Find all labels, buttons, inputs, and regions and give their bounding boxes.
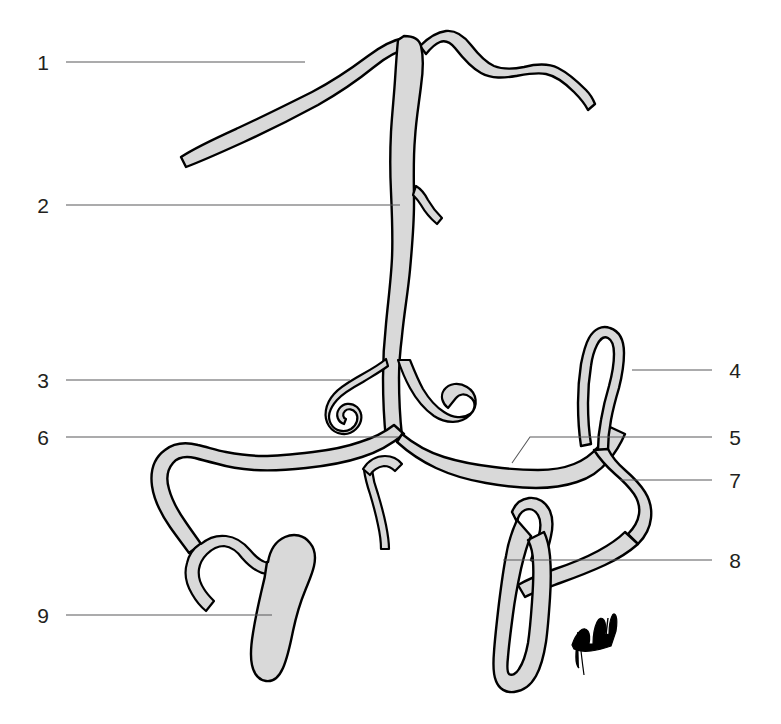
central-hanging-tail	[364, 470, 389, 549]
label-number-9: 9	[37, 604, 49, 627]
left-curled-branch	[326, 359, 388, 434]
right-ascending-base	[594, 449, 651, 544]
right-descending-lobe	[493, 520, 550, 692]
label-number-7: 7	[729, 469, 741, 492]
center-right-notch	[363, 456, 402, 475]
left-horizontal-branch	[152, 425, 404, 553]
label-number-5: 5	[729, 426, 741, 449]
left-descending-lobe	[251, 535, 315, 681]
figure-canvas: 1 2 3 6 9 4 5 7 8	[0, 0, 781, 724]
label-number-6: 6	[37, 426, 49, 449]
label-number-2: 2	[37, 194, 49, 217]
right-curled-branch	[398, 360, 476, 422]
labels-right-group: 4 5 7 8	[729, 359, 741, 572]
label-number-3: 3	[37, 369, 49, 392]
left-superior-branch	[181, 38, 409, 167]
labels-left-group: 1 2 3 6 9	[37, 51, 49, 627]
label-number-4: 4	[729, 359, 741, 382]
organ-outline-group	[152, 31, 652, 692]
label-number-8: 8	[729, 549, 741, 572]
anatomical-diagram: 1 2 3 6 9 4 5 7 8	[0, 0, 781, 724]
right-superior-branch	[420, 31, 595, 110]
label-number-1: 1	[37, 51, 49, 74]
left-lower-hook	[186, 536, 268, 611]
trunk-spur-branch	[413, 186, 442, 224]
artist-signature	[572, 614, 617, 675]
